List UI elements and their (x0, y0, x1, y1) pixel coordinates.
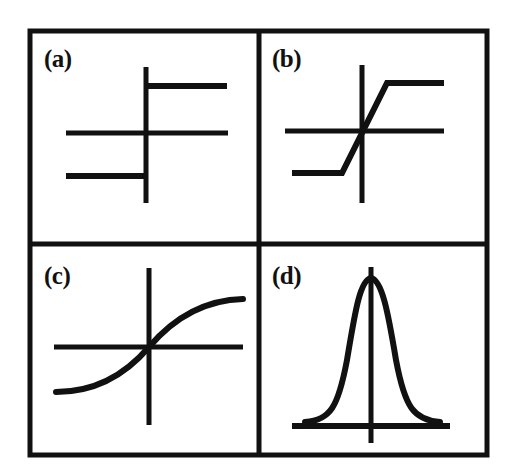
panel-d-label: (d) (272, 263, 301, 288)
panel-b-plot (285, 65, 444, 203)
figure-canvas (0, 0, 511, 475)
panel-a-plot (66, 67, 228, 203)
panel-a-label: (a) (44, 46, 72, 71)
panel-c-plot (54, 268, 243, 425)
panel-b-saturating-ramp (292, 83, 444, 173)
panel-b-label: (b) (272, 46, 301, 71)
figure-container: (a) (b) (c) (d) (0, 0, 511, 475)
panel-c-label: (c) (44, 263, 70, 288)
panel-d-plot (292, 267, 450, 443)
